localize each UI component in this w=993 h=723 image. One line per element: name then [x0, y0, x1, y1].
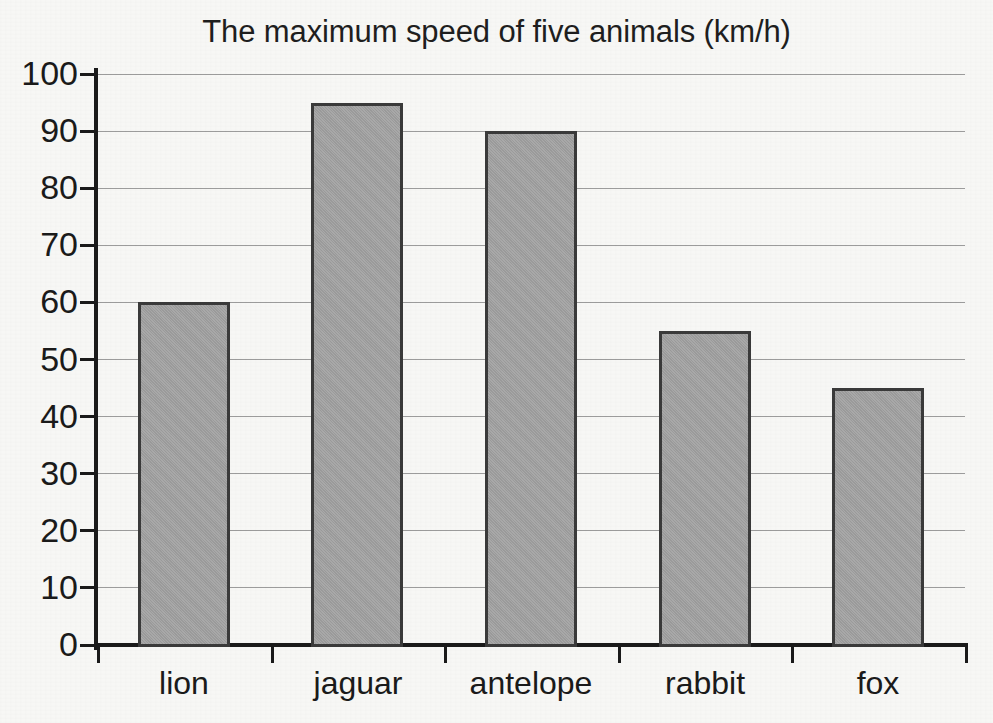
- y-axis-tick: [80, 529, 98, 532]
- bar-antelope: [485, 131, 577, 647]
- y-axis-tick-label: 80: [4, 170, 78, 204]
- x-axis-tick-label-jaguar: jaguar: [271, 665, 445, 701]
- y-axis-tick: [80, 472, 98, 475]
- y-axis-tick-label: 40: [4, 399, 78, 433]
- y-axis-tick: [80, 130, 98, 133]
- bar-chart-plot-area: 1009080706050403020100 lionjaguarantelop…: [0, 0, 993, 723]
- gridline: [97, 74, 965, 75]
- y-axis-tick-label: 20: [4, 513, 78, 547]
- y-axis-tick: [80, 644, 98, 647]
- y-axis-tick-label: 50: [4, 342, 78, 376]
- x-axis-tick-label-antelope: antelope: [444, 665, 618, 701]
- x-axis-tick-label-rabbit: rabbit: [618, 665, 792, 701]
- y-axis-tick: [80, 586, 98, 589]
- y-axis-tick: [80, 301, 98, 304]
- y-axis-tick-label: 90: [4, 113, 78, 147]
- y-axis-tick-label: 10: [4, 570, 78, 604]
- x-axis-tick: [791, 646, 794, 663]
- y-axis-tick: [80, 244, 98, 247]
- x-axis-tick: [618, 646, 621, 663]
- y-axis-tick: [80, 73, 98, 76]
- chart-page: The maximum speed of five animals (km/h)…: [0, 0, 993, 723]
- y-axis-tick: [80, 358, 98, 361]
- y-axis-tick-label: 100: [4, 56, 78, 90]
- x-axis-tick-label-fox: fox: [791, 665, 965, 701]
- y-axis-tick-label: 30: [4, 456, 78, 490]
- y-axis-tick: [80, 187, 98, 190]
- bar-jaguar: [311, 103, 403, 647]
- bar-fox: [832, 388, 924, 647]
- x-axis-tick: [965, 646, 968, 663]
- x-axis-tick: [444, 646, 447, 663]
- x-axis-tick: [271, 646, 274, 663]
- y-axis-tick-label: 70: [4, 227, 78, 261]
- x-axis-tick-label-lion: lion: [97, 665, 271, 701]
- x-axis-tick: [97, 646, 100, 663]
- y-axis-tick-label: 60: [4, 284, 78, 318]
- y-axis-tick: [80, 415, 98, 418]
- bar-rabbit: [659, 331, 751, 647]
- y-axis-tick-label: 0: [4, 627, 78, 661]
- bar-lion: [138, 302, 230, 647]
